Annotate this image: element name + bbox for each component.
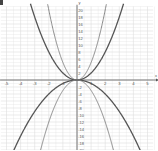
y-tick-label: 14	[78, 29, 83, 34]
y-tick-label: 20	[78, 8, 83, 13]
y-tick-label: 10	[78, 43, 83, 48]
y-tick-label: -18	[78, 141, 85, 146]
x-axis-label: x	[155, 73, 157, 78]
y-tick-label: -16	[78, 134, 85, 139]
x-tick-label: -4	[19, 81, 23, 86]
x-axis-arrow-icon	[156, 79, 158, 82]
y-tick-label: -10	[78, 113, 85, 118]
y-tick-label: -12	[78, 120, 85, 125]
y-tick-label: -20	[78, 148, 85, 151]
y-tick-label: -14	[78, 127, 85, 132]
x-tick-label: -5	[5, 81, 9, 86]
parabola-chart: xy-5-4-3-2-112345-20-18-16-14-12-10-8-6-…	[0, 0, 158, 150]
x-tick-label: -2	[47, 81, 51, 86]
y-tick-label: 12	[78, 36, 83, 41]
x-tick-label: -3	[33, 81, 37, 86]
y-tick-label: 16	[78, 22, 83, 27]
y-axis-label: y	[79, 0, 81, 5]
y-tick-label: 18	[78, 15, 83, 20]
